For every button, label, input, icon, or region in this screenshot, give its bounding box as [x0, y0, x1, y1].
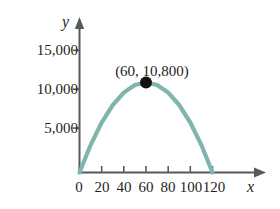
x-tick-label-120: 120 [203, 180, 226, 195]
y-axis-label: y [62, 14, 69, 30]
y-tick-label-15000: 15,000 [37, 43, 78, 58]
parabola-plot [0, 0, 280, 209]
parabola-curve [80, 83, 213, 173]
x-axis [80, 168, 267, 178]
x-tick-label-0: 0 [75, 180, 83, 195]
x-axis-label: x [247, 179, 254, 195]
vertex-annotation-label: (60, 10,800) [115, 64, 189, 79]
y-tick-label-10000: 10,000 [37, 82, 78, 97]
x-tick-label-100: 100 [180, 180, 203, 195]
x-tick-label-20: 20 [95, 180, 110, 195]
x-tick-label-40: 40 [117, 180, 132, 195]
chart-figure: 15,000 10,000 5,000 0 20 40 60 80 100 12… [0, 0, 280, 209]
x-tick-label-80: 80 [161, 180, 176, 195]
y-tick-label-5000: 5,000 [44, 121, 78, 136]
x-tick-label-60: 60 [139, 180, 154, 195]
